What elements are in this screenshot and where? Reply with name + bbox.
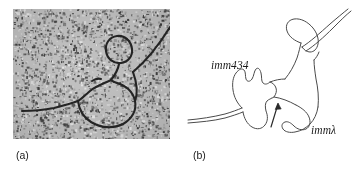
strand-left-tail [22,101,78,111]
label-imm434: imm434 [211,59,249,71]
duplex-tail-upper-right-strand-a [302,9,348,47]
label-imm-lambda: immλ [311,124,336,136]
strand-short-connector [92,79,101,81]
imm434-bubble-lower-edge [243,98,272,129]
top-loop-inner-join [314,52,319,60]
caption-panel-a: (a) [16,149,29,161]
strand-loop-stem [111,64,119,80]
duplex-tail-left-upper-strand [188,108,242,120]
caption-panel-b: (b) [193,149,206,161]
electron-micrograph [13,9,170,139]
figure-root: (a) [0,0,353,175]
strand-loop [106,36,132,63]
strand-upper-right-arm [133,27,170,72]
junction-to-right-lower [274,97,296,105]
duplex-tail-upper-right-strand-b [306,11,351,51]
imm434-bubble-upper-edge [233,68,270,108]
branch-point-arrow [271,103,281,127]
strand-left-branch [78,80,111,101]
branch-point-junction [270,82,276,98]
panel-b: imm434 immλ (b) [180,0,353,175]
imm-lambda-stem-left-strand [285,43,301,79]
micrograph-dna-strands [13,9,170,139]
panel-a: (a) [0,0,180,175]
junction-to-right-upper [270,79,285,82]
strand-lower-bubble [78,80,135,127]
duplex-tail-left-lower-strand [188,112,243,123]
imm-lambda-stem-right-strand [314,60,318,107]
